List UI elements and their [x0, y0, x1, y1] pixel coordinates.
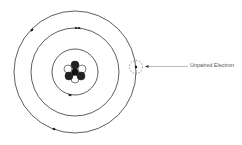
nucleus	[64, 61, 86, 83]
unpaired-electron-label: Unpaired Electron	[190, 62, 234, 68]
atom-diagram	[0, 0, 242, 145]
electron	[75, 27, 78, 29]
electron	[78, 27, 81, 29]
annotation-arrow	[145, 65, 188, 68]
